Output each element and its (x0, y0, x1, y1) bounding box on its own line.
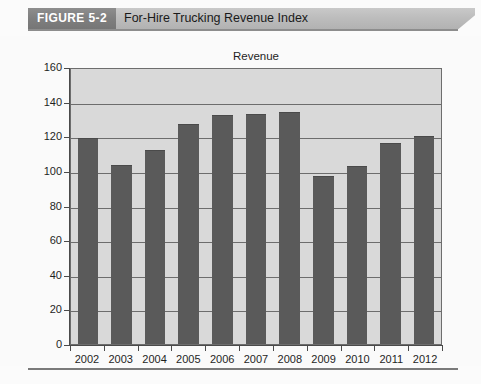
y-axis-tick (64, 310, 70, 311)
x-axis-tick-label: 2012 (408, 353, 442, 365)
x-axis-tick-label: 2006 (205, 353, 239, 365)
y-axis-tick (64, 172, 70, 173)
x-axis-tick-label: 2009 (307, 353, 341, 365)
x-axis-tick-label: 2010 (341, 353, 375, 365)
bar-slot (138, 69, 172, 344)
x-axis-tick (307, 346, 308, 351)
y-axis-tick-label: 160 (22, 61, 62, 73)
x-axis-tick (442, 346, 443, 351)
x-axis-tick-label: 2005 (171, 353, 205, 365)
x-axis-tick (104, 346, 105, 351)
x-axis-tick (171, 346, 172, 351)
bar (313, 176, 334, 344)
bar (111, 165, 132, 344)
bar-slot (71, 69, 105, 344)
figure-bottom-rule (28, 368, 458, 370)
bar-series (71, 69, 441, 344)
y-axis-tick (64, 103, 70, 104)
bar (212, 115, 233, 344)
bar-slot (239, 69, 273, 344)
y-axis-tick (64, 276, 70, 277)
bar (145, 150, 166, 344)
bar-slot (206, 69, 240, 344)
figure-header: FIGURE 5-2 For-Hire Trucking Revenue Ind… (28, 8, 475, 29)
x-axis-tick (374, 346, 375, 351)
x-axis-tick (239, 346, 240, 351)
bar (414, 136, 435, 344)
bar (78, 138, 99, 344)
x-axis-tick-label: 2002 (70, 353, 104, 365)
x-axis-labels: 2002200320042005200620072008200920102011… (70, 353, 442, 365)
bar (380, 143, 401, 344)
x-axis-tick-label: 2007 (239, 353, 273, 365)
bar-slot (407, 69, 441, 344)
bar-slot (374, 69, 408, 344)
y-axis-tick-label: 0 (22, 338, 62, 350)
y-axis-tick-label: 20 (22, 303, 62, 315)
bar (347, 166, 368, 344)
x-axis-tick-label: 2003 (104, 353, 138, 365)
y-axis-tick-label: 80 (22, 200, 62, 212)
y-axis-tick (64, 68, 70, 69)
bar-slot (105, 69, 139, 344)
bar-slot (172, 69, 206, 344)
x-axis-tick-label: 2011 (374, 353, 408, 365)
chart-title: Revenue (70, 50, 442, 62)
y-axis-labels: 020406080100120140160 (16, 36, 62, 366)
x-axis-tick (273, 346, 274, 351)
x-axis-tick (70, 346, 71, 351)
bar (178, 124, 199, 344)
x-axis-tick-label: 2004 (138, 353, 172, 365)
figure-header-underline (28, 29, 458, 31)
bar (246, 114, 267, 344)
y-axis-tick (64, 137, 70, 138)
bar-slot (273, 69, 307, 344)
x-axis-tick (341, 346, 342, 351)
y-axis-tick-label: 140 (22, 96, 62, 108)
y-axis-tick-label: 60 (22, 234, 62, 246)
x-axis-tick (408, 346, 409, 351)
bar-slot (306, 69, 340, 344)
x-axis-tick (138, 346, 139, 351)
chart-region: Revenue 020406080100120140160 2002200320… (0, 36, 481, 366)
bar (279, 112, 300, 344)
x-axis-line (69, 345, 443, 346)
y-axis-tick-label: 120 (22, 130, 62, 142)
figure-number-label: FIGURE 5-2 (28, 8, 116, 29)
figure-title: For-Hire Trucking Revenue Index (124, 8, 308, 29)
y-axis-tick-label: 40 (22, 269, 62, 281)
y-axis-tick (64, 207, 70, 208)
y-axis-tick-label: 100 (22, 165, 62, 177)
plot-area (70, 68, 442, 345)
bar-slot (340, 69, 374, 344)
y-axis-tick (64, 241, 70, 242)
x-axis-tick (205, 346, 206, 351)
x-axis-tick-label: 2008 (273, 353, 307, 365)
